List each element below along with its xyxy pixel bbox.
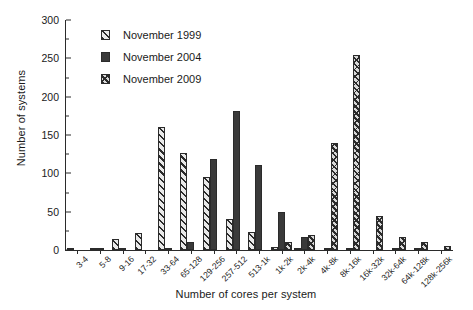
bar-group (202, 20, 225, 250)
y-tick-label: 150 (23, 129, 66, 141)
legend-item: November 2009 (101, 70, 201, 88)
x-tick-mark (327, 250, 328, 254)
bar (97, 248, 104, 250)
bar-group (293, 20, 316, 250)
y-tick-label: 50 (23, 206, 66, 218)
bar (255, 165, 262, 250)
bar (210, 159, 217, 250)
y-tick-label: 300 (23, 14, 66, 26)
y-tick-label: 0 (23, 244, 66, 256)
bar (90, 248, 97, 250)
bar-group (270, 20, 293, 250)
x-tick-mark (350, 250, 351, 254)
bar (158, 127, 165, 250)
bar (119, 248, 126, 250)
legend-item: November 2004 (101, 48, 201, 66)
x-tick-mark (282, 250, 283, 254)
legend-label: November 2009 (123, 73, 201, 85)
bar (414, 248, 421, 250)
bar-group (225, 20, 248, 250)
bar (331, 143, 338, 250)
bar-group (361, 20, 384, 250)
bar (165, 248, 172, 250)
bar-group (384, 20, 407, 250)
x-tick-mark (304, 250, 305, 254)
y-tick-label: 100 (23, 167, 66, 179)
legend-swatch-2004 (101, 52, 110, 62)
bar (392, 248, 399, 250)
x-tick-mark (373, 250, 374, 254)
bar-group (66, 20, 89, 250)
legend-item: November 1999 (101, 26, 201, 44)
bar (67, 248, 74, 250)
bar (294, 248, 301, 250)
bar-group (429, 20, 452, 250)
x-tick-mark (395, 250, 396, 254)
y-tick-label: 250 (23, 52, 66, 64)
legend-label: November 1999 (123, 29, 201, 41)
x-tick-mark (145, 250, 146, 254)
bar (271, 247, 278, 250)
x-axis-title: Number of cores per system (116, 288, 376, 300)
bar-group (248, 20, 271, 250)
legend: November 1999 November 2004 November 200… (101, 26, 201, 92)
bar-chart: Number of systems Number of cores per sy… (0, 0, 473, 310)
bar (376, 216, 383, 251)
bar (112, 239, 119, 250)
bar (248, 232, 255, 250)
bar (421, 242, 428, 250)
bar (187, 242, 194, 250)
legend-swatch-1999 (101, 30, 110, 40)
bar (180, 153, 187, 250)
bar (278, 212, 285, 250)
x-tick-mark (100, 250, 101, 254)
bar (285, 242, 292, 250)
bar (308, 235, 315, 250)
legend-label: November 2004 (123, 51, 201, 63)
x-tick-mark (418, 250, 419, 254)
bar (135, 233, 142, 250)
bar (324, 248, 331, 250)
bar (233, 111, 240, 250)
x-tick-mark (123, 250, 124, 254)
legend-swatch-2009 (101, 74, 110, 84)
bar-group (407, 20, 430, 250)
bar (226, 219, 233, 250)
x-tick-mark (441, 250, 442, 254)
bar (203, 177, 210, 250)
bar (353, 55, 360, 251)
bar (399, 237, 406, 250)
y-tick-label: 200 (23, 91, 66, 103)
x-tick-mark (259, 250, 260, 254)
bar-group (316, 20, 339, 250)
bar (346, 248, 353, 250)
x-tick-mark (77, 250, 78, 254)
bar (444, 246, 451, 250)
x-tick-mark (236, 250, 237, 254)
x-tick-mark (168, 250, 169, 254)
x-tick-mark (191, 250, 192, 254)
x-tick-mark (214, 250, 215, 254)
bar-group (338, 20, 361, 250)
bar (301, 237, 308, 250)
